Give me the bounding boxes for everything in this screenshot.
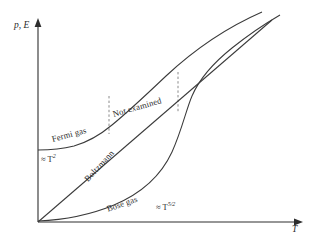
bose-asymptote-base: ≈ T — [156, 203, 168, 212]
fermi-asymptote-base: ≈ T — [41, 155, 53, 164]
boltzmann-line — [38, 20, 272, 222]
fermi-asymptote-label: ≈ T2 — [41, 153, 56, 164]
y-axis-arrowhead — [35, 18, 42, 27]
thermodynamics-gas-comparison-figure: p, E T Fermi gas Boltzmann Bose gas Not … — [0, 0, 315, 243]
fermi-asymptote-exponent: 2 — [53, 153, 56, 159]
bose-asymptote-exponent: 5/2 — [168, 201, 176, 207]
bose-asymptote-label: ≈ T5/2 — [156, 201, 175, 212]
x-axis-label: T — [292, 225, 297, 235]
y-axis-label: p, E — [14, 21, 29, 31]
